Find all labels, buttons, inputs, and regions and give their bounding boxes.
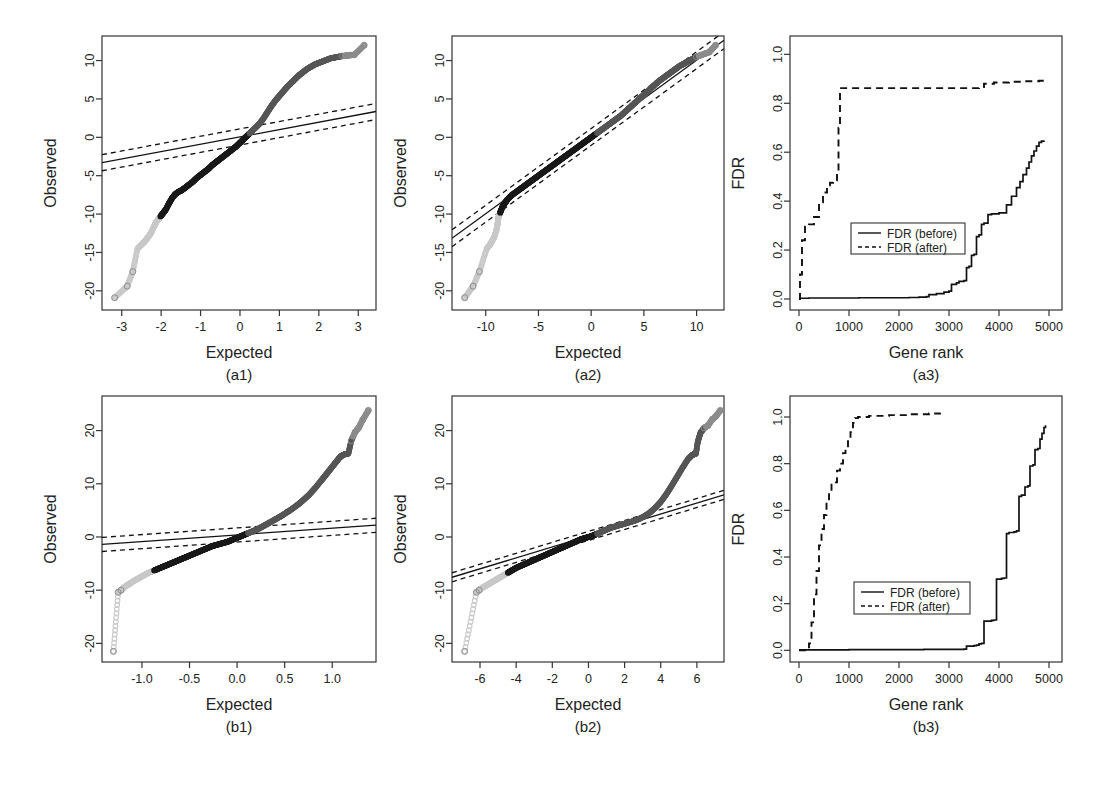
y-tick-label-b3-1: 0.2 [771, 595, 785, 612]
panel-caption-b1: (b1) [226, 718, 253, 735]
y-tick-label-a1-6: -20 [83, 282, 97, 300]
panel-caption-b2: (b2) [575, 718, 602, 735]
x-tick-label-b3-1: 1000 [835, 672, 863, 686]
x-tick-label-a1-0: -3 [116, 320, 127, 334]
y-tick-label-a3-5: 1.0 [771, 46, 785, 63]
x-tick-label-a3-1: 1000 [835, 320, 863, 334]
y-tick-label-a2-6: -20 [433, 282, 447, 300]
x-tick-label-b3-5: 5000 [1035, 672, 1063, 686]
x-tick-label-a1-1: -2 [156, 320, 167, 334]
x-tick-label-b3-3: 3000 [935, 672, 963, 686]
y-tick-label-b3-5: 1.0 [771, 408, 785, 425]
y-tick-label-b1-1: 10 [83, 477, 97, 491]
x-tick-label-a3-3: 3000 [935, 320, 963, 334]
y-tick-label-b3-3: 0.6 [771, 502, 785, 519]
x-axis-label-b2: Expected [555, 696, 622, 713]
y-tick-label-a3-3: 0.6 [771, 143, 785, 160]
panel-caption-a1: (a1) [226, 366, 253, 383]
y-tick-label-a3-2: 0.4 [771, 192, 785, 209]
y-axis-label-a1: Observed [42, 138, 59, 207]
y-tick-label-a1-2: 0 [83, 134, 97, 141]
x-tick-label-a2-1: -5 [533, 320, 544, 334]
y-tick-label-a1-3: -5 [83, 170, 97, 181]
y-axis-label-b2: Observed [392, 494, 409, 563]
x-tick-label-a1-4: 1 [276, 320, 283, 334]
y-axis-label-b3: FDR [730, 513, 747, 546]
y-tick-label-a2-0: 10 [433, 54, 447, 68]
x-tick-label-a2-3: 5 [640, 320, 647, 334]
legend-a3: FDR (before)FDR (after) [851, 223, 965, 255]
x-tick-label-a3-4: 4000 [985, 320, 1013, 334]
x-tick-label-b2-2: -2 [547, 672, 558, 686]
x-tick-label-a2-2: 0 [588, 320, 595, 334]
x-tick-label-a2-4: 10 [690, 320, 704, 334]
x-axis-label-b1: Expected [206, 696, 273, 713]
y-tick-label-b2-3: -10 [433, 581, 447, 599]
y-tick-label-a3-0: 0.0 [771, 290, 785, 307]
panel-caption-a3: (a3) [913, 366, 940, 383]
y-axis-label-a2: Observed [392, 138, 409, 207]
y-tick-label-b2-2: 0 [433, 533, 447, 540]
y-tick-label-a2-3: -5 [433, 170, 447, 181]
x-tick-label-a1-3: 0 [237, 320, 244, 334]
legend-label-1: FDR (after) [887, 241, 947, 255]
x-tick-label-a3-2: 2000 [885, 320, 913, 334]
y-axis-label-a3: FDR [730, 157, 747, 190]
y-tick-label-a1-4: -10 [83, 205, 97, 223]
figure-background [0, 0, 1110, 786]
x-tick-label-b1-0: -1.0 [131, 672, 153, 686]
y-tick-label-a2-2: 0 [433, 134, 447, 141]
x-axis-label-a3: Gene rank [889, 344, 965, 361]
x-tick-label-b1-3: 0.5 [276, 672, 293, 686]
y-tick-label-b1-2: 0 [83, 533, 97, 540]
x-tick-label-b2-3: 0 [585, 672, 592, 686]
x-tick-label-a1-5: 2 [315, 320, 322, 334]
x-tick-label-b3-4: 4000 [985, 672, 1013, 686]
x-axis-label-a2: Expected [555, 344, 622, 361]
y-tick-label-a2-4: -10 [433, 205, 447, 223]
legend-label-0: FDR (before) [887, 227, 957, 241]
y-tick-label-b2-0: 20 [433, 424, 447, 438]
x-tick-label-b3-2: 2000 [885, 672, 913, 686]
y-tick-label-b2-1: 10 [433, 477, 447, 491]
x-tick-label-b2-5: 4 [657, 672, 664, 686]
y-tick-label-b3-2: 0.4 [771, 548, 785, 565]
x-tick-label-b2-0: -6 [474, 672, 485, 686]
y-tick-label-a2-1: 5 [433, 95, 447, 102]
x-tick-label-b2-4: 2 [621, 672, 628, 686]
y-tick-label-a3-1: 0.2 [771, 241, 785, 258]
x-tick-label-a2-0: -10 [477, 320, 495, 334]
x-tick-label-b1-4: 1.0 [324, 672, 341, 686]
y-tick-label-b3-4: 0.8 [771, 455, 785, 472]
figure-root: -3-2-101231050-5-10-15-20ExpectedObserve… [0, 0, 1110, 786]
x-axis-label-b3: Gene rank [889, 696, 965, 713]
x-tick-label-b3-0: 0 [796, 672, 803, 686]
legend-label-0: FDR (before) [890, 586, 960, 600]
y-tick-label-a1-1: 5 [83, 95, 97, 102]
y-tick-label-b3-0: 0.0 [771, 642, 785, 659]
legend-label-1: FDR (after) [890, 600, 950, 614]
y-tick-label-a2-5: -15 [433, 243, 447, 261]
x-tick-label-a3-0: 0 [796, 320, 803, 334]
y-tick-label-a3-4: 0.8 [771, 95, 785, 112]
x-axis-label-a1: Expected [206, 344, 273, 361]
x-tick-label-a3-5: 5000 [1035, 320, 1063, 334]
x-tick-label-a1-2: -1 [195, 320, 206, 334]
panel-caption-a2: (a2) [575, 366, 602, 383]
x-tick-label-b1-2: 0.0 [228, 672, 245, 686]
y-tick-label-b1-3: -10 [83, 581, 97, 599]
figure-svg: -3-2-101231050-5-10-15-20ExpectedObserve… [0, 0, 1110, 786]
x-tick-label-b1-1: -0.5 [179, 672, 201, 686]
x-tick-label-b2-1: -4 [511, 672, 522, 686]
panel-caption-b3: (b3) [913, 718, 940, 735]
y-tick-label-b1-4: -20 [83, 634, 97, 652]
y-axis-label-b1: Observed [42, 494, 59, 563]
legend-b3: FDR (before)FDR (after) [854, 582, 970, 614]
y-tick-label-a1-0: 10 [83, 54, 97, 68]
y-tick-label-a1-5: -15 [83, 243, 97, 261]
x-tick-label-b2-6: 6 [693, 672, 700, 686]
x-tick-label-a1-6: 3 [355, 320, 362, 334]
y-tick-label-b2-4: -20 [433, 634, 447, 652]
y-tick-label-b1-0: 20 [83, 424, 97, 438]
